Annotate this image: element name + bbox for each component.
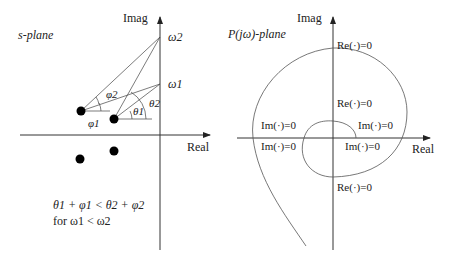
phi2-label: φ2 [106,88,118,100]
right-imag-label: Imag [297,11,322,25]
label-outer-top-crossing: Re(·)=0 [337,39,372,52]
s-plane-panel: s-plane Imag Real ω2 ω1 φ2 φ1 θ1 θ2 θ1 +… [18,11,210,250]
right-real-label: Real [412,142,435,156]
p-plane-panel: P(jω)-plane Imag Real Re(·)=0 Re(·)=0 Im… [227,11,435,250]
p-plane-title: P(jω)-plane [227,27,286,41]
omega1-label: ω1 [168,77,182,91]
pole-upper-left [77,107,86,116]
inequality-line1: θ1 + φ1 < θ2 + φ2 [53,198,144,212]
diagram-canvas: s-plane Imag Real ω2 ω1 φ2 φ1 θ1 θ2 θ1 +… [0,0,453,265]
pole-lower-left [76,155,85,164]
label-inner-right-below: Im(·)=0 [345,140,380,153]
label-outer-left-below: Im(·)=0 [261,140,296,153]
label-inner-right-above: Im(·)=0 [358,119,393,132]
theta2-label: θ2 [149,97,160,109]
left-real-label: Real [187,140,210,154]
inequality-line2: for ω1 < ω2 [53,214,111,228]
theta1-label: θ1 [133,105,144,117]
phi1-label: φ1 [88,117,100,129]
pole-lower-right [110,147,119,156]
theta1-arc [130,111,132,119]
omega2-label: ω2 [168,30,182,44]
left-imag-label: Imag [123,11,148,25]
s-plane-title: s-plane [18,28,54,42]
label-inner-top-crossing: Re(·)=0 [337,97,372,110]
pole-upper-right [110,115,119,124]
label-outer-left-above: Im(·)=0 [261,119,296,132]
phi2-arc [96,97,99,104]
label-bottom-crossing: Re(·)=0 [337,181,372,194]
